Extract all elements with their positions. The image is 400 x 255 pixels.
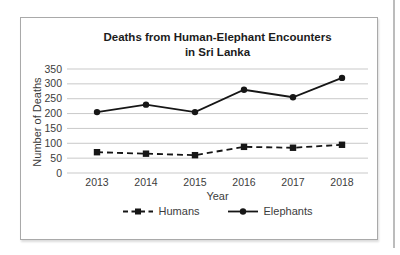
y-tick-label: 200	[44, 107, 62, 119]
x-tick-label: 2017	[281, 176, 305, 188]
page-edge-line	[393, 0, 395, 248]
data-point-elephants	[339, 75, 345, 81]
x-axis-title: Year	[67, 190, 368, 202]
y-tick-label: 350	[44, 63, 62, 75]
y-tick-label: 50	[50, 152, 62, 164]
data-point-humans	[94, 149, 100, 155]
data-point-elephants	[241, 87, 247, 93]
legend-label-elephants: Elephants	[264, 205, 313, 217]
data-point-elephants	[192, 109, 198, 115]
x-tick-label: 2015	[183, 176, 207, 188]
dashed-square-marker-icon	[123, 207, 153, 216]
data-point-humans	[143, 150, 149, 156]
y-tick-label: 150	[44, 122, 62, 134]
data-point-humans	[192, 152, 198, 158]
y-tick-label: 100	[44, 137, 62, 149]
data-point-elephants	[94, 109, 100, 115]
screenshot-root: Deaths from Human-Elephant Encounters in…	[0, 0, 400, 255]
x-tick-label: 2013	[85, 176, 109, 188]
y-tick-label: 250	[44, 92, 62, 104]
data-point-elephants	[290, 94, 296, 100]
solid-circle-marker-icon	[228, 207, 258, 216]
x-tick-label: 2014	[134, 176, 158, 188]
data-point-elephants	[143, 101, 149, 107]
x-tick-label: 2018	[330, 176, 354, 188]
x-tick-label: 2016	[232, 176, 256, 188]
legend-item-elephants: Elephants	[228, 205, 313, 217]
chart-panel: Deaths from Human-Elephant Encounters in…	[20, 17, 378, 240]
legend-item-humans: Humans	[123, 205, 200, 217]
data-point-humans	[241, 144, 247, 150]
legend-label-humans: Humans	[159, 205, 200, 217]
data-point-humans	[290, 145, 296, 151]
y-tick-label: 300	[44, 77, 62, 89]
series-line-elephants	[97, 78, 342, 112]
legend: Humans Elephants	[67, 205, 368, 217]
y-tick-label: 0	[56, 167, 62, 179]
data-point-humans	[339, 142, 345, 148]
series-line-humans	[97, 145, 342, 155]
